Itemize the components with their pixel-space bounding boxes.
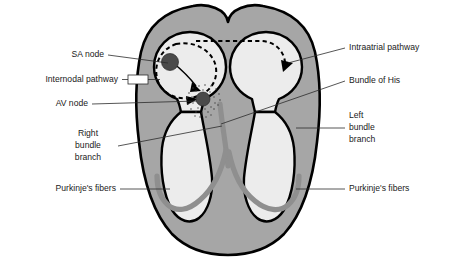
- label-left-bundle-branch-line1: Left: [349, 110, 364, 120]
- label-sa-node: SA node: [72, 49, 105, 59]
- label-bundle-of-his: Bundle of His: [349, 75, 400, 85]
- labels-right-group: Intraatrial pathway Bundle of His Left b…: [349, 42, 420, 193]
- sa-node-marker: [162, 54, 179, 71]
- label-right-bundle-branch-line2: bundle: [75, 140, 101, 150]
- label-right-bundle-branch-line1: Right: [78, 128, 99, 138]
- label-internodal-pathway: Internodal pathway: [45, 74, 118, 84]
- label-left-bundle-branch-line2: bundle: [349, 122, 375, 132]
- av-node-marker: [196, 92, 210, 106]
- labels-left-group: SA node Internodal pathway AV node Right…: [45, 49, 118, 193]
- label-purkinje-fibers-right: Purkinje's fibers: [349, 183, 409, 193]
- label-right-bundle-branch-line3: branch: [75, 152, 101, 162]
- heart-diagram-svg: SA node Internodal pathway AV node Right…: [0, 0, 457, 263]
- conduction-system-figure: SA node Internodal pathway AV node Right…: [0, 0, 457, 263]
- label-av-node: AV node: [56, 98, 89, 108]
- label-intraatrial-pathway: Intraatrial pathway: [349, 42, 420, 52]
- label-left-bundle-branch-line3: branch: [349, 134, 375, 144]
- label-purkinje-fibers-left: Purkinje's fibers: [56, 183, 116, 193]
- internodal-pathway-box: [128, 75, 148, 84]
